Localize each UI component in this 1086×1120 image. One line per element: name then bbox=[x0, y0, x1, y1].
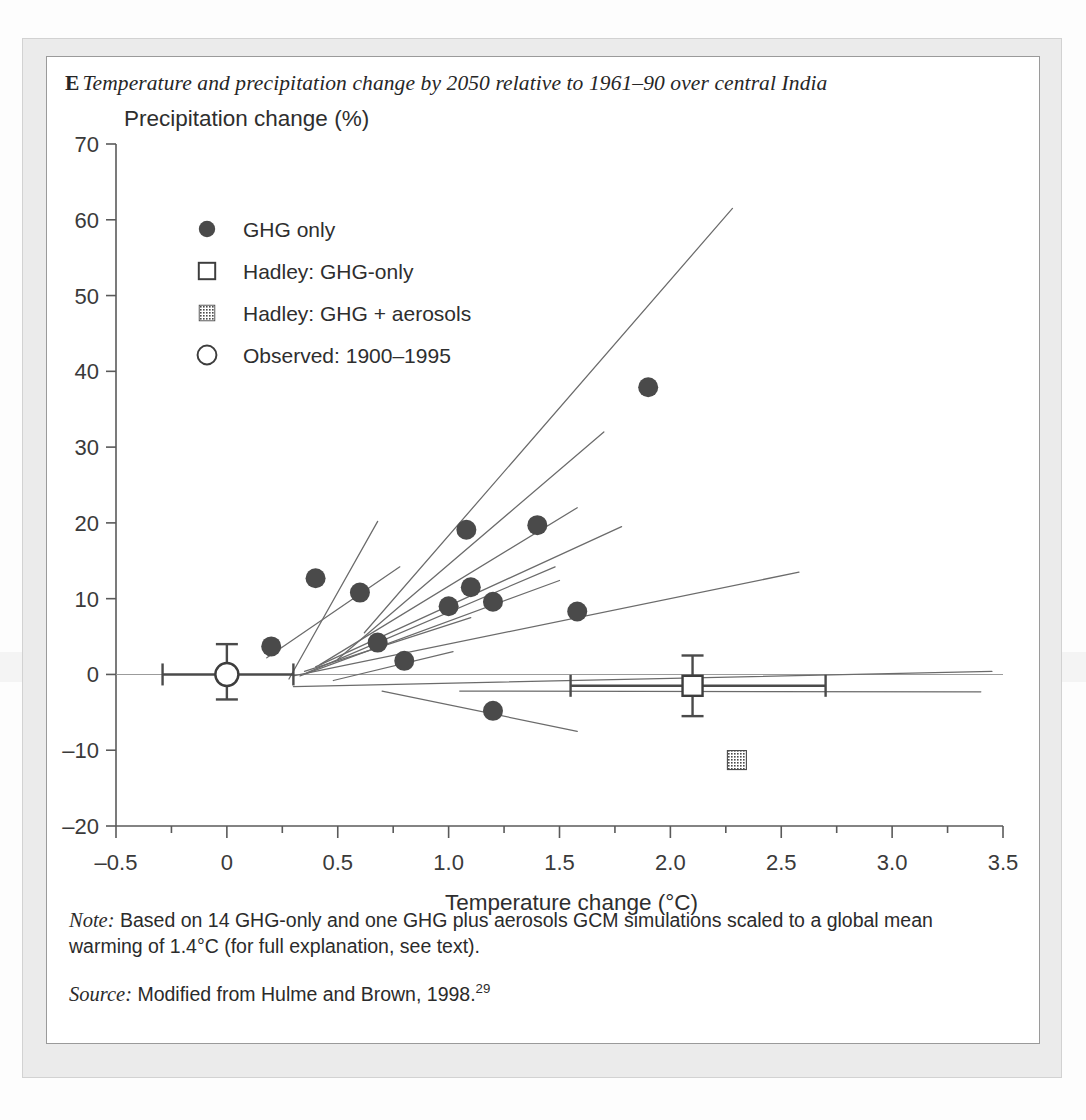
trend-line bbox=[460, 691, 981, 692]
x-axis-tick-label: 1.5 bbox=[544, 850, 575, 875]
y-axis-tick-label: 50 bbox=[75, 284, 99, 309]
y-axis-tick-label: –20 bbox=[62, 814, 99, 839]
marker-filled-circle bbox=[439, 596, 459, 616]
chart-plot-area: –20–10010203040506070–0.500.51.01.52.02.… bbox=[47, 57, 1041, 937]
note-paragraph: Note: Based on 14 GHG-only and one GHG p… bbox=[69, 907, 999, 959]
y-axis-tick-label: 10 bbox=[75, 587, 99, 612]
marker-filled-circle bbox=[527, 515, 547, 535]
trend-line bbox=[293, 671, 992, 686]
y-axis-tick-label: 20 bbox=[75, 511, 99, 536]
y-axis-title: Precipitation change (%) bbox=[124, 106, 369, 131]
x-axis-tick-label: 0.5 bbox=[322, 850, 353, 875]
marker-filled-circle bbox=[456, 520, 476, 540]
marker-hatched-square bbox=[199, 305, 215, 321]
figure-container: ETemperature and precipitation change by… bbox=[46, 56, 1040, 1044]
marker-filled-circle bbox=[483, 592, 503, 612]
marker-filled-circle bbox=[261, 636, 281, 656]
y-axis-tick-label: 60 bbox=[75, 208, 99, 233]
marker-filled-circle bbox=[368, 633, 388, 653]
chart-legend: GHG onlyHadley: GHG-onlyHadley: GHG + ae… bbox=[198, 218, 472, 367]
scatter-chart-svg: –20–10010203040506070–0.500.51.01.52.02.… bbox=[47, 57, 1041, 937]
legend-item-label: Hadley: GHG-only bbox=[243, 260, 414, 283]
data-points-layer bbox=[215, 377, 746, 769]
marker-open-circle bbox=[215, 663, 238, 686]
trend-lines-layer bbox=[267, 208, 992, 731]
y-axis-tick-label: 30 bbox=[75, 435, 99, 460]
axis-layer bbox=[106, 144, 1003, 838]
x-axis-tick-label: 3.5 bbox=[988, 850, 1019, 875]
marker-filled-circle bbox=[567, 602, 587, 622]
marker-open-square bbox=[683, 676, 703, 696]
x-axis-tick-label: 1.0 bbox=[433, 850, 464, 875]
marker-filled-circle bbox=[306, 568, 326, 588]
legend-item-label: Hadley: GHG + aerosols bbox=[243, 302, 471, 325]
marker-filled-circle bbox=[394, 651, 414, 671]
source-footnote-marker: 29 bbox=[476, 981, 491, 996]
source-paragraph: Source: Modified from Hulme and Brown, 1… bbox=[69, 981, 999, 1006]
source-label: Source: bbox=[69, 983, 132, 1005]
marker-filled-circle bbox=[350, 583, 370, 603]
figure-notes: Note: Based on 14 GHG-only and one GHG p… bbox=[69, 907, 999, 1006]
y-axis-tick-label: 40 bbox=[75, 359, 99, 384]
note-label: Note: bbox=[69, 909, 115, 931]
trend-line bbox=[338, 432, 604, 659]
marker-filled-circle bbox=[461, 577, 481, 597]
source-text: Modified from Hulme and Brown, 1998. bbox=[132, 983, 476, 1005]
x-axis-tick-label: 0 bbox=[221, 850, 233, 875]
trend-line bbox=[300, 580, 559, 675]
x-axis-tick-label: 2.0 bbox=[655, 850, 686, 875]
marker-filled-circle bbox=[483, 701, 503, 721]
marker-open-square bbox=[199, 263, 215, 279]
legend-item-label: Observed: 1900–1995 bbox=[243, 344, 451, 367]
marker-filled-circle bbox=[199, 221, 215, 237]
y-axis-tick-label: 70 bbox=[75, 132, 99, 157]
x-axis-tick-label: 2.5 bbox=[766, 850, 797, 875]
marker-open-circle bbox=[198, 346, 217, 365]
legend-item-label: GHG only bbox=[243, 218, 336, 241]
screenshot-page: ETemperature and precipitation change by… bbox=[0, 0, 1086, 1120]
y-axis-tick-label: –10 bbox=[62, 738, 99, 763]
note-text: Based on 14 GHG-only and one GHG plus ae… bbox=[69, 909, 933, 957]
marker-hatched-square bbox=[727, 751, 746, 770]
x-axis-tick-label: 3.0 bbox=[877, 850, 908, 875]
y-axis-tick-label: 0 bbox=[87, 662, 99, 687]
marker-filled-circle bbox=[638, 377, 658, 397]
trend-line bbox=[382, 691, 577, 731]
x-axis-tick-label: –0.5 bbox=[95, 850, 138, 875]
